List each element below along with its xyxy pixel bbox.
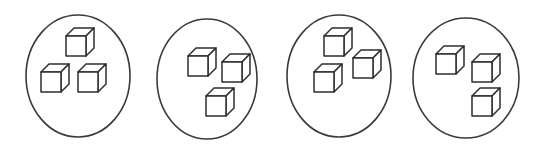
cube-front-face [206,96,226,116]
cube-g2-2 [222,54,250,82]
cube-g2-3 [206,88,234,116]
cube-g1-1 [66,28,94,56]
groups-layer [26,15,519,139]
cube-g4-1 [436,46,464,74]
cube-front-face [188,56,208,76]
cube-front-face [472,96,492,116]
figure-canvas [0,0,545,159]
cube-front-face [78,72,98,92]
cube-g3-3 [314,64,342,92]
cube-front-face [314,72,334,92]
cube-front-face [66,36,86,56]
cube-g3-2 [353,50,381,78]
cube-g1-2 [41,64,69,92]
cube-g4-3 [472,88,500,116]
cube-g3-1 [324,28,352,56]
cube-g4-2 [472,54,500,82]
cube-front-face [222,62,242,82]
cube-front-face [353,58,373,78]
cube-front-face [436,54,456,74]
cube-front-face [324,36,344,56]
cube-group-4 [413,18,519,138]
cube-front-face [41,72,61,92]
cube-group-2 [157,19,257,139]
cube-front-face [472,62,492,82]
group-circle-4 [413,18,519,138]
cube-group-3 [287,15,391,137]
cube-groups-figure: Four circles, each containing three smal… [0,0,545,159]
cube-g1-3 [78,64,106,92]
cube-g2-1 [188,48,216,76]
cube-group-1 [26,15,130,137]
